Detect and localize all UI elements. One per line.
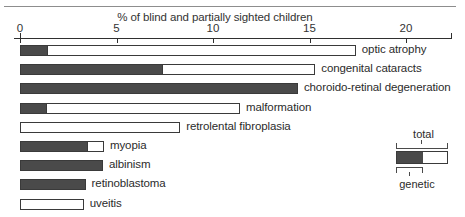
bar-genetic-segment [20, 160, 103, 171]
legend: total genetic [386, 128, 461, 190]
bar-category-label: optic atrophy [362, 43, 427, 55]
legend-total-brace [396, 143, 448, 149]
bar-genetic-segment [20, 83, 298, 94]
bar-genetic-segment [20, 45, 48, 56]
bar-row[interactable]: congenital cataracts [0, 64, 465, 76]
bar-chart: % of blind and partially sighted childre… [0, 0, 465, 217]
bar-row[interactable]: uveitis [0, 199, 465, 211]
bar-category-label: malformation [246, 101, 311, 113]
bar-genetic-segment [20, 103, 47, 114]
bar-row[interactable]: optic atrophy [0, 45, 465, 57]
bar-category-label: albinism [109, 158, 150, 170]
legend-swatch [396, 151, 448, 164]
bar-category-label: choroido-retinal degeneration [304, 81, 451, 93]
bar-category-label: retinoblastoma [92, 177, 166, 189]
bar-category-label: uveitis [90, 197, 122, 209]
legend-genetic-brace-stem [409, 172, 410, 176]
bar-genetic-segment [20, 141, 88, 152]
bar-total-segment [20, 103, 240, 114]
bar-category-label: congenital cataracts [321, 62, 421, 74]
bar-total-segment [20, 199, 84, 210]
bar-genetic-segment [20, 64, 163, 75]
legend-genetic-label: genetic [386, 178, 448, 190]
bar-row[interactable]: choroido-retinal degeneration [0, 83, 465, 95]
legend-total-label: total [386, 128, 461, 140]
bar-category-label: retrolental fibroplasia [186, 120, 290, 132]
bar-genetic-segment [20, 179, 86, 190]
bar-total-segment [20, 45, 356, 56]
legend-swatch-genetic [397, 152, 423, 163]
bar-category-label: myopia [110, 139, 146, 151]
bar-row[interactable]: malformation [0, 103, 465, 115]
bar-total-segment [20, 122, 180, 133]
